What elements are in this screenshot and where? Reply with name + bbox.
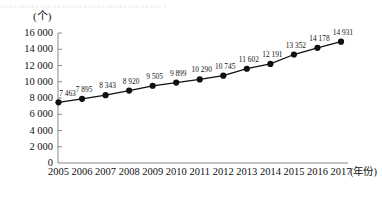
x-tick-label: 2015 [283,166,304,177]
data-point-label: 9 899 [170,70,187,78]
x-tick-label: 2013 [236,166,257,177]
data-point-label: 11 602 [239,56,259,64]
data-point-marker [220,73,226,79]
data-point-marker [197,76,203,82]
x-axis-unit-label: (年份) [350,166,377,177]
data-point-label: 10 745 [215,63,235,71]
data-point-marker [150,83,156,89]
data-point-label: 14 931 [333,29,353,37]
data-point-label: 13 352 [286,42,306,50]
data-point-marker [291,51,297,57]
data-point-label: 14 178 [309,35,329,43]
data-point-label: 7 895 [76,86,93,94]
data-point-marker [267,61,273,67]
x-tick-label: 2007 [95,166,116,177]
x-tick-label: 2017 [331,166,352,177]
data-point-label: 10 290 [192,66,212,74]
data-point-label: 8 920 [123,78,140,86]
data-point-label: 12 191 [262,51,282,59]
data-point-label: 9 505 [146,73,163,81]
data-point-marker [244,66,250,72]
axis-lines [58,33,348,163]
data-point-marker [173,79,179,85]
data-point-marker [79,96,85,102]
x-tick-label: 2016 [307,166,328,177]
line-chart: 。。。。。。。。。。。。。。。。。。。。。。。。。。。。。。。。。。。。。。 (… [0,0,382,198]
x-tick-label: 2005 [48,166,69,177]
data-point-label: 8 343 [99,82,116,90]
data-point-label: 7 463 [59,90,76,98]
x-tick-label: 2014 [260,166,281,177]
data-point-marker [55,99,61,105]
x-tick-label: 2008 [119,166,140,177]
x-tick-label: 2010 [166,166,187,177]
data-point-marker [338,39,344,45]
x-tick-label: 2012 [213,166,234,177]
data-point-marker [314,45,320,51]
data-point-marker [102,92,108,98]
data-point-marker [126,87,132,93]
x-tick-label: 2006 [72,166,93,177]
x-tick-label: 2011 [189,166,210,177]
x-tick-label: 2009 [142,166,163,177]
